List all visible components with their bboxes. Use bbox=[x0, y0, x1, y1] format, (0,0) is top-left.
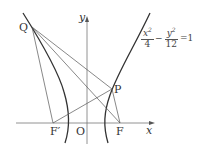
x-axis-label: x bbox=[146, 125, 152, 136]
segment-FprimeP bbox=[53, 89, 112, 123]
eq-rhs: =1 bbox=[180, 33, 193, 43]
point-label-Q: Q bbox=[19, 22, 28, 33]
segment-QP bbox=[32, 27, 112, 89]
origin-label: O bbox=[76, 126, 85, 137]
eq-y-den: 12 bbox=[163, 40, 178, 50]
eq-y-exp: 2 bbox=[172, 26, 176, 33]
hyperbola-equation: x2 4 − y2 12 =1 bbox=[140, 27, 193, 50]
point-label-Fprime: F′ bbox=[50, 126, 60, 137]
hyperbola-diagram: Q P F F′ O x y x2 4 − y2 12 =1 bbox=[0, 0, 200, 149]
point-label-F: F bbox=[116, 126, 124, 137]
y-axis-arrow-icon bbox=[85, 16, 89, 22]
eq-minus: − bbox=[155, 33, 163, 43]
hyperbola-left-branch bbox=[23, 13, 69, 143]
equation-fraction-x: x2 4 bbox=[141, 27, 154, 50]
eq-x-exp: 2 bbox=[148, 26, 152, 33]
diagram-canvas bbox=[0, 0, 200, 149]
y-axis-label: y bbox=[79, 12, 85, 23]
eq-x-den: 4 bbox=[143, 40, 153, 50]
point-label-P: P bbox=[114, 84, 121, 95]
segment-QFprime bbox=[32, 27, 53, 123]
equation-fraction-y: y2 12 bbox=[163, 27, 178, 50]
segment-QF bbox=[32, 27, 120, 123]
